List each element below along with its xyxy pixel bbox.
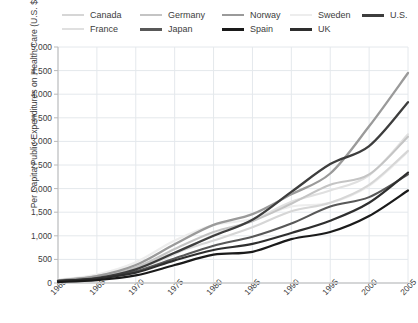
series-line-germany [58,137,408,280]
series-line-france [58,134,408,281]
plot-area [0,0,418,323]
chart-container: CanadaGermanyNorwaySwedenU.S.FranceJapan… [0,0,418,323]
series-line-sweden [58,152,408,280]
chart-svg [0,0,418,323]
series-line-norway [58,73,408,281]
series-line-canada [58,151,408,281]
